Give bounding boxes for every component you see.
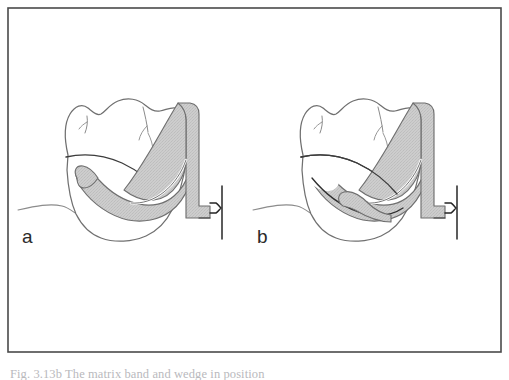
panel-label-b: b <box>257 226 268 247</box>
panel-label-a: a <box>22 226 33 247</box>
